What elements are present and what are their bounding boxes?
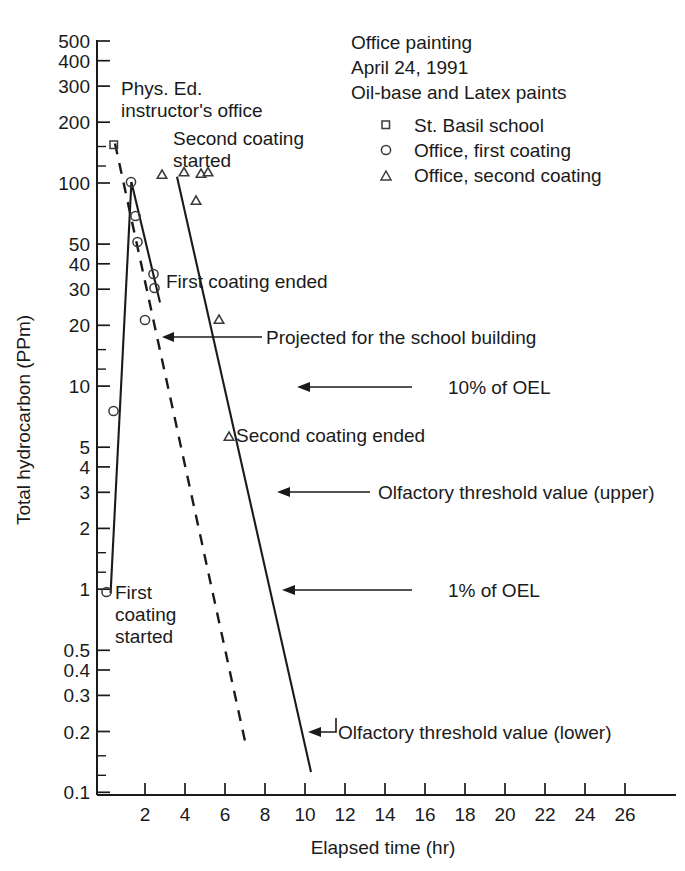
annotation-line: Projected for the school building [266, 327, 536, 348]
annotation-line: started [115, 626, 173, 647]
arrow-head-icon [162, 332, 174, 342]
y-tick-label: 5 [79, 437, 90, 458]
x-tick-label: 8 [260, 804, 271, 825]
y-tick-label: 30 [69, 279, 90, 300]
y-tick-labels: 500 400 300 200 100 50 40 30 20 10 5 4 3… [58, 31, 90, 803]
annotation-second-coating-started: Second coating started [173, 128, 304, 171]
annotation-line: Second coating [173, 128, 304, 149]
second-coating-decay-line [177, 177, 311, 772]
x-tick-labels: 2 4 6 8 10 12 14 16 18 20 22 24 26 [140, 804, 636, 825]
arrow-head-icon [297, 382, 310, 392]
annotation-line: Olfactory threshold value (upper) [378, 482, 655, 503]
arrow-head-icon [308, 727, 321, 737]
y-tick-label: 400 [58, 51, 90, 72]
annotation-one-percent-oel: 1% of OEL [282, 580, 540, 601]
x-tick-label: 6 [220, 804, 231, 825]
x-tick-label: 12 [334, 804, 355, 825]
legend-label: St. Basil school [414, 115, 544, 136]
chart-header: Office painting April 24, 1991 Oil-base … [351, 32, 566, 103]
header-line-2: April 24, 1991 [351, 57, 468, 78]
legend-square-icon [382, 121, 390, 129]
y-tick-label: 0.4 [64, 660, 91, 681]
y-tick-label: 300 [58, 76, 90, 97]
legend-label: Office, second coating [414, 165, 602, 186]
annotation-line: Second coating ended [236, 425, 425, 446]
y-tick-label: 0.3 [64, 685, 90, 706]
y-tick-label: 200 [58, 112, 90, 133]
annotation-line: First [115, 582, 153, 603]
y-tick-label: 3 [79, 482, 90, 503]
data-point-triangle [224, 432, 234, 440]
annotation-line: coating [115, 604, 176, 625]
y-tick-label: 500 [58, 31, 90, 52]
y-tick-label: 0.5 [64, 640, 90, 661]
data-point-circle [140, 315, 149, 324]
y-tick-label: 0.2 [64, 722, 90, 743]
school-projection-line [115, 144, 245, 742]
x-tick-label: 18 [454, 804, 475, 825]
y-tick-label: 40 [69, 254, 90, 275]
y-tick-label: 1 [79, 579, 90, 600]
series-office-first-coating [102, 177, 159, 596]
legend-entry-office-first-coating: Office, first coating [381, 140, 571, 161]
arrow-head-icon [277, 487, 290, 497]
x-tick-label: 4 [180, 804, 191, 825]
annotation-line: 1% of OEL [448, 580, 540, 601]
arrow-head-icon [282, 585, 295, 595]
chart-figure: 500 400 300 200 100 50 40 30 20 10 5 4 3… [0, 0, 685, 871]
x-tick-label: 2 [140, 804, 151, 825]
chart-canvas: 500 400 300 200 100 50 40 30 20 10 5 4 3… [0, 0, 685, 871]
y-tick-label: 50 [69, 234, 90, 255]
annotation-line: Olfactory threshold value (lower) [338, 722, 612, 743]
y-axis-title: Total hydrocarbon (PPm) [13, 315, 34, 525]
y-tick-label: 4 [79, 457, 90, 478]
y-tick-label: 20 [69, 315, 90, 336]
x-tick-label: 16 [414, 804, 435, 825]
legend-circle-icon [381, 145, 390, 154]
data-point-triangle [214, 315, 224, 323]
y-tick-label: 100 [58, 173, 90, 194]
x-tick-label: 24 [574, 804, 596, 825]
annotation-line: First coating ended [166, 271, 328, 292]
annotation-line: started [173, 150, 231, 171]
header-line-1: Office painting [351, 32, 472, 53]
y-tick-label: 10 [69, 376, 90, 397]
chart-legend: St. Basil school Office, first coating O… [381, 115, 602, 186]
legend-entry-office-second-coating: Office, second coating [381, 165, 602, 186]
annotation-ten-percent-oel: 10% of OEL [297, 377, 550, 398]
annotation-olfactory-upper: Olfactory threshold value (upper) [277, 482, 655, 503]
header-line-3: Oil-base and Latex paints [351, 82, 566, 103]
annotation-phys-ed: Phys. Ed. instructor's office [121, 78, 263, 121]
annotation-first-coating-started: First coating started [115, 582, 176, 647]
data-point-triangle [191, 196, 201, 204]
data-point-circle [150, 283, 159, 292]
x-tick-label: 20 [494, 804, 515, 825]
annotation-projected-school: Projected for the school building [162, 327, 536, 348]
annotation-line: 10% of OEL [448, 377, 550, 398]
annotation-line: instructor's office [121, 100, 263, 121]
office-rise-line [111, 182, 132, 593]
series-office-second-coating [157, 168, 234, 441]
legend-label: Office, first coating [414, 140, 571, 161]
legend-triangle-icon [381, 171, 391, 180]
annotation-line: Phys. Ed. [121, 78, 202, 99]
x-tick-label: 14 [374, 804, 396, 825]
data-point-circle [109, 406, 118, 415]
data-point-triangle [157, 170, 167, 178]
x-tick-label: 10 [294, 804, 315, 825]
y-tick-label: 0.1 [64, 782, 90, 803]
y-tick-marks [97, 41, 110, 792]
x-tick-label: 26 [614, 804, 635, 825]
y-tick-label: 2 [79, 518, 90, 539]
annotation-first-coating-ended: First coating ended [166, 271, 328, 292]
x-tick-marks [145, 783, 625, 795]
annotation-second-coating-ended: Second coating ended [236, 425, 425, 446]
annotation-olfactory-lower: Olfactory threshold value (lower) [308, 718, 612, 743]
x-axis-title: Elapsed time (hr) [311, 837, 456, 858]
legend-entry-st-basil-school: St. Basil school [382, 115, 544, 136]
x-tick-label: 22 [534, 804, 555, 825]
